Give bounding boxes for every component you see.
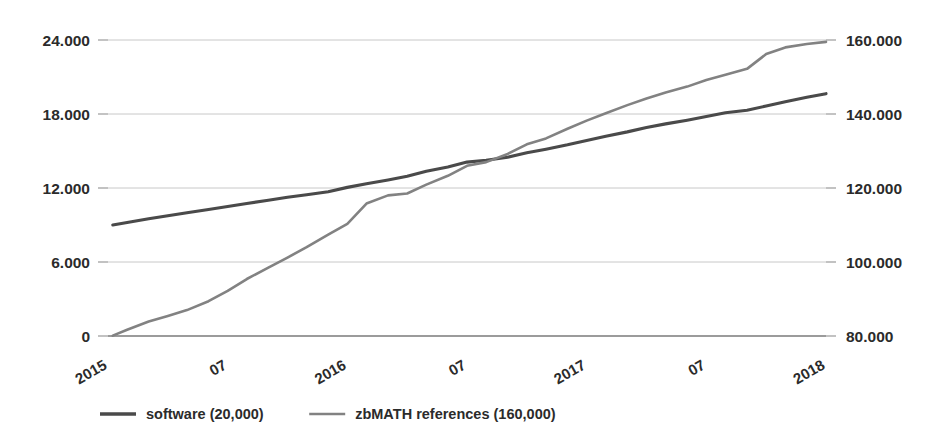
x-axis-tick-label: 2016 xyxy=(311,356,348,387)
series-lines xyxy=(113,42,826,336)
x-axis-tick-label: 07 xyxy=(685,356,708,379)
right-axis-tick-label: 160.000 xyxy=(846,32,902,49)
line-chart: 06.00012.00018.00024.000 80.000100.00012… xyxy=(0,0,938,447)
x-axis-tick-label: 2015 xyxy=(72,356,109,387)
right-axis-tick-label: 140.000 xyxy=(846,106,902,123)
gridlines xyxy=(108,40,826,262)
right-axis-tick-label: 80.000 xyxy=(846,328,893,345)
left-axis-tick-label: 6.000 xyxy=(51,254,90,271)
left-axis-tick-label: 0 xyxy=(81,328,90,345)
left-axis-tick-labels: 06.00012.00018.00024.000 xyxy=(43,32,90,345)
left-axis-tick-label: 12.000 xyxy=(43,180,90,197)
x-axis-tick-label: 2017 xyxy=(551,356,588,387)
x-axis-tick-label: 07 xyxy=(446,356,469,379)
right-axis-tick-labels: 80.000100.000120.000140.000160.000 xyxy=(846,32,902,345)
x-axis-tick-label: 07 xyxy=(206,356,229,379)
series-line-software xyxy=(113,94,826,225)
chart-container: 06.00012.00018.00024.000 80.000100.00012… xyxy=(0,0,938,447)
left-axis-tick-label: 24.000 xyxy=(43,32,90,49)
right-axis-tick-label: 100.000 xyxy=(846,254,902,271)
x-axis-tick-labels: 2015072016072017072018 xyxy=(72,356,827,387)
left-axis-tick-label: 18.000 xyxy=(43,106,90,123)
legend-label: software (20,000) xyxy=(146,406,264,422)
chart-legend: software (20,000)zbMATH references (160,… xyxy=(100,406,556,422)
right-axis-tick-label: 120.000 xyxy=(846,180,902,197)
legend-label: zbMATH references (160,000) xyxy=(355,406,556,422)
x-axis-tick-label: 2018 xyxy=(790,356,827,387)
series-line-zbmath-references xyxy=(113,42,826,336)
